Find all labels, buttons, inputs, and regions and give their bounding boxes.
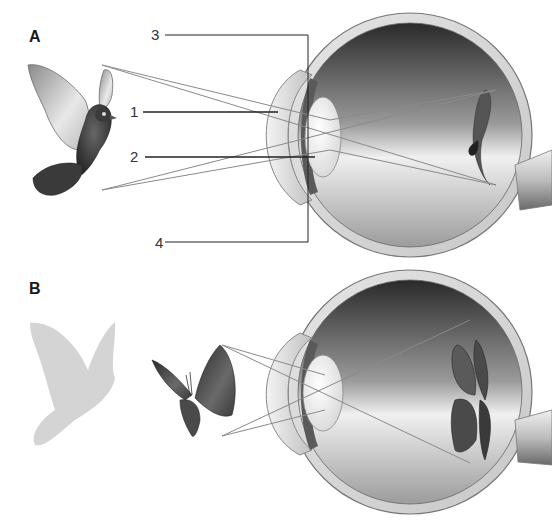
pigeon-silhouette [30, 322, 115, 445]
panel-a [28, 13, 552, 257]
eye-a [266, 13, 552, 257]
eye-diagram [0, 0, 552, 525]
eye-b [266, 270, 552, 514]
callout-1: 1 [130, 104, 138, 119]
panel-a-label: A [29, 28, 41, 46]
callout-2: 2 [130, 149, 138, 164]
callout-4: 4 [155, 235, 163, 250]
butterfly-object [152, 345, 235, 436]
panel-b [30, 270, 552, 514]
panel-b-label: B [29, 280, 41, 298]
callout-3: 3 [151, 27, 159, 42]
pigeon-object [28, 65, 117, 196]
